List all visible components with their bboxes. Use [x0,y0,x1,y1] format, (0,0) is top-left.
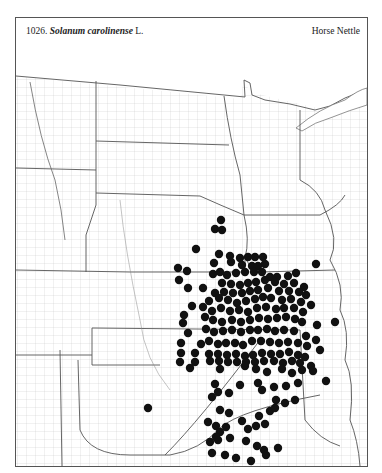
occurrence-dot [255,314,263,322]
occurrence-dot [263,368,271,376]
occurrence-dot [261,276,269,284]
occurrence-dot [238,289,246,297]
occurrence-dot [281,399,289,407]
occurrence-dot [227,280,235,288]
occurrence-dot [258,349,266,357]
occurrence-dot [284,272,292,280]
occurrence-dot [294,339,302,347]
occurrence-dot [246,326,254,334]
occurrence-dot [223,271,231,279]
occurrence-dot [270,383,278,391]
occurrence-dot [276,350,284,358]
occurrence-dot [199,303,207,311]
occurrence-dot [222,339,230,347]
occurrence-dot [197,340,205,348]
occurrence-dot [292,269,300,277]
occurrence-dot [280,326,288,334]
occurrence-dot [176,358,184,366]
occurrence-dot [241,362,249,370]
occurrence-dot [183,267,191,275]
occurrence-dot [272,305,280,313]
occurrence-dot [211,380,219,388]
occurrence-dot [271,278,279,286]
occurrence-dot [287,295,295,303]
occurrence-dot [204,418,212,426]
occurrence-dot [235,306,243,314]
occurrence-dot [237,318,245,326]
occurrence-dot [290,279,298,287]
occurrence-dot [244,279,252,287]
occurrence-dot [225,389,233,397]
occurrence-dot [232,350,240,358]
occurrence-dot [242,437,250,445]
occurrence-dot [236,381,244,389]
occurrence-dot [262,303,270,311]
occurrence-dot [218,318,226,326]
occurrence-dot [251,253,259,261]
occurrence-dot [184,284,192,292]
occurrence-dot [285,348,293,356]
occurrence-dot [226,307,234,315]
occurrence-dot [202,325,210,333]
occurrence-dot [188,302,196,310]
occurrence-dot [260,357,268,365]
occurrence-dot [254,286,262,294]
occurrence-dot [271,404,279,412]
occurrence-dot [208,307,216,315]
occurrence-dot [290,327,298,335]
occurrence-dot [270,357,278,365]
occurrence-dot [282,313,290,321]
occurrence-dot [258,386,266,394]
occurrence-dot [298,366,306,374]
occurrence-dot [313,321,321,329]
occurrence-dot [244,425,252,433]
occurrence-dot [205,297,213,305]
occurrence-dot [299,308,307,316]
occurrence-dot [302,291,310,299]
occurrence-dot [214,340,222,348]
occurrence-dot [294,379,302,387]
occurrence-dot [215,294,223,302]
occurrence-dot [232,454,240,462]
occurrence-dot [227,258,235,266]
occurrence-dot [278,365,286,373]
occurrence-dot [274,444,282,452]
occurrence-dot [212,433,220,441]
occurrence-dot [184,329,192,337]
occurrence-dot [262,451,270,459]
occurrence-dot [177,349,185,357]
occurrence-dot [247,457,255,465]
occurrence-dot [219,327,227,335]
occurrence-dot [280,304,288,312]
occurrence-dot [229,289,237,297]
occurrence-dot [263,325,271,333]
occurrence-dot [238,417,246,425]
occurrence-dot [246,287,254,295]
occurrence-dot [258,268,266,276]
occurrence-dot [291,396,299,404]
occurrence-dot [192,245,200,253]
occurrence-dot [218,279,226,287]
occurrence-dot [273,314,281,322]
occurrence-dot [252,365,260,373]
occurrence-dot [228,326,236,334]
occurrence-dot [222,423,230,431]
occurrence-dot [266,338,274,346]
occurrence-dot [246,316,254,324]
occurrence-dot [210,328,218,336]
occurrence-dot [280,280,288,288]
occurrence-dot [175,276,183,284]
occurrence-dot [177,339,185,347]
occurrence-dot [208,449,216,457]
occurrence-dot [278,296,286,304]
occurrence-dot [216,406,224,414]
occurrence-dot [225,409,233,417]
occurrence-dot [232,269,240,277]
occurrence-dot [217,216,225,224]
distribution-map [0,0,382,473]
occurrence-dot [271,327,279,335]
occurrence-dot [261,420,269,428]
occurrence-dot [206,357,214,365]
occurrence-dot [288,369,296,377]
occurrence-dot [186,364,194,372]
